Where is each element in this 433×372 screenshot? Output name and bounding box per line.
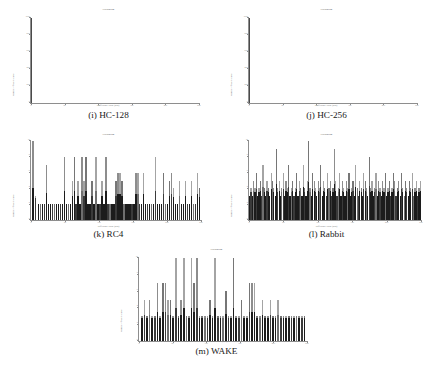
histogram-bar-cap — [249, 283, 251, 312]
histogram-bar-cap — [298, 316, 300, 318]
histogram-bar-cap — [121, 181, 122, 196]
y-axis-tick-label: 8 — [137, 271, 138, 273]
axes-hc256: 02004006008001000050100150200250 — [248, 18, 417, 104]
histogram-bar-cap — [264, 316, 266, 318]
histogram-bar-cap — [175, 258, 177, 308]
histogram-bar-cap — [308, 141, 309, 182]
histogram-bar — [199, 318, 201, 341]
x-axis-tick-label: 0 — [248, 221, 249, 223]
histogram-bar — [304, 318, 306, 341]
histogram-bar-cap — [162, 283, 164, 312]
histogram-bar-cap — [228, 316, 230, 318]
y-axis-tick — [137, 307, 139, 308]
histogram-bar-cap — [420, 181, 421, 191]
histogram-bar — [293, 318, 295, 341]
histogram-bar-cap — [366, 188, 367, 192]
y-axis-tick — [247, 156, 249, 157]
yaxis-label-hc128: Number of occurrences — [12, 74, 15, 96]
plotarea-rc4 — [31, 141, 201, 220]
histogram-bar — [212, 318, 214, 341]
histogram-bar-cap — [267, 316, 269, 318]
histogram-bar-cap — [170, 300, 172, 316]
panel-hc128: Histogram 020040060080010000501001502002… — [6, 8, 211, 126]
histogram-bar-cap — [173, 188, 174, 197]
histogram-bar — [162, 312, 164, 341]
histogram-bar-cap — [46, 165, 47, 193]
histogram-bar — [191, 308, 193, 341]
histogram-bar-cap — [402, 188, 403, 192]
histogram-bar-cap — [209, 300, 211, 316]
y-axis-tick-label: 0 — [247, 99, 248, 101]
x-axis-tick-label: 50 — [282, 221, 284, 223]
axes-rc4: 0246810050100150200250 — [30, 141, 201, 221]
y-axis-tick — [137, 257, 139, 258]
histogram-bar-cap — [207, 316, 209, 318]
histogram-bar-cap — [256, 316, 258, 318]
y-axis-tick-label: 10 — [136, 254, 138, 256]
histogram-bar — [264, 318, 266, 341]
histogram-bar-cap — [149, 300, 151, 316]
y-axis-tick — [137, 324, 139, 325]
histogram-bar-cap — [352, 181, 353, 191]
histogram-bar-cap — [401, 173, 402, 189]
caption-rabbit: (l) Rabbit — [224, 229, 429, 240]
histogram-bar-cap — [385, 173, 386, 189]
histogram-bar-cap — [272, 316, 274, 318]
plotarea-hc128 — [31, 18, 199, 103]
panel-rc4: Histogram 0246810050100150200250 Differe… — [6, 133, 211, 243]
histogram-bar-cap — [64, 157, 65, 191]
histogram-bar-cap — [259, 316, 261, 318]
histogram-bar-cap — [199, 316, 201, 318]
y-axis-tick — [29, 68, 31, 69]
y-axis-tick-label: 800 — [245, 31, 248, 33]
histogram-bar-cap — [243, 316, 245, 318]
y-axis-tick — [29, 172, 31, 173]
plot-title-rabbit: Histogram — [224, 133, 429, 137]
y-axis-tick — [247, 172, 249, 173]
y-axis-tick — [29, 85, 31, 86]
y-axis-tick — [29, 140, 31, 141]
histogram-bar-cap — [270, 300, 272, 316]
histogram-bar-cap — [201, 316, 203, 318]
histogram-bar — [243, 318, 245, 341]
caption-rc4: (k) RC4 — [6, 229, 211, 240]
histogram-bar-cap — [151, 316, 153, 318]
x-axis-tick-label: 250 — [199, 221, 202, 223]
histogram-bar — [220, 318, 222, 341]
y-axis-tick-label: 6 — [247, 169, 248, 171]
histogram-bar-cap — [217, 316, 219, 318]
yaxis-label-rc4: Number of occurrences — [12, 195, 15, 217]
histogram-bar-cap — [371, 181, 372, 191]
histogram-bar — [267, 318, 269, 341]
histogram-bar-cap — [191, 258, 193, 308]
y-axis-tick — [29, 188, 31, 189]
histogram-bar-cap — [379, 188, 380, 192]
histogram-bar — [259, 318, 261, 341]
histogram-bar — [149, 315, 151, 341]
histogram-bar — [280, 318, 282, 341]
histogram-bar-cap — [262, 300, 264, 316]
histogram-bar-cap — [260, 181, 261, 191]
y-axis-tick — [247, 85, 249, 86]
histogram-bar-cap — [105, 157, 106, 191]
histogram-bar-cap — [256, 173, 257, 189]
histogram-bar-cap — [296, 316, 298, 318]
histogram-bar — [157, 312, 159, 341]
histogram-bar-cap — [355, 165, 356, 188]
histogram-bar-cap — [183, 258, 185, 308]
histogram-bar-cap — [406, 188, 407, 192]
y-axis-tick-label: 1000 — [25, 14, 29, 16]
caption-hc128: (i) HC-128 — [6, 110, 211, 121]
histogram-bar-cap — [300, 188, 301, 192]
histogram-bar — [151, 318, 153, 341]
histogram-bar — [275, 318, 277, 341]
y-axis-tick-label: 800 — [27, 31, 30, 33]
histogram-bar — [154, 318, 156, 341]
histogram-bar-cap — [225, 291, 227, 314]
histogram-bar-cap — [172, 316, 174, 318]
y-axis-tick-label: 8 — [247, 153, 248, 155]
xaxis-label-rc4: Difference value (bits) — [6, 225, 211, 228]
y-axis-tick-label: 4 — [137, 304, 138, 306]
histogram-bar — [272, 318, 274, 341]
histogram-bar — [172, 318, 174, 341]
